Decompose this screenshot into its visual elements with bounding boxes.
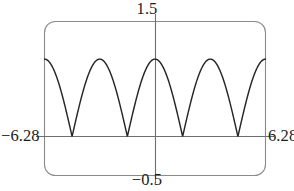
x-min-label: −6.28 — [1, 128, 40, 145]
y-max-label: 1.5 — [0, 1, 294, 18]
plot-canvas — [0, 0, 294, 191]
graphing-calculator-plot: 1.5 −0.5 −6.28 6.28 — [0, 0, 294, 191]
x-max-label: 6.28 — [268, 128, 294, 145]
y-min-label: −0.5 — [0, 172, 294, 189]
